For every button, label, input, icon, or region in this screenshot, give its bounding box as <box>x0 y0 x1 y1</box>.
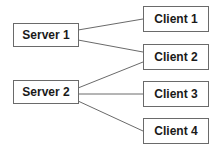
edge-server2-client4 <box>78 101 143 131</box>
server-2-label: Server 2 <box>22 85 69 99</box>
edge-server2-client2 <box>78 62 143 88</box>
client-4-node: Client 4 <box>143 118 209 144</box>
server-2-node: Server 2 <box>13 80 79 104</box>
client-2-label: Client 2 <box>154 50 197 64</box>
server-1-label: Server 1 <box>22 28 69 42</box>
client-2-node: Client 2 <box>143 44 209 70</box>
edge-server1-client1 <box>78 19 143 30</box>
client-1-node: Client 1 <box>143 6 209 32</box>
edge-server1-client2 <box>78 40 143 52</box>
server-1-node: Server 1 <box>13 23 79 47</box>
client-1-label: Client 1 <box>154 12 197 26</box>
client-3-node: Client 3 <box>143 81 209 107</box>
client-3-label: Client 3 <box>154 87 197 101</box>
client-4-label: Client 4 <box>154 124 197 138</box>
